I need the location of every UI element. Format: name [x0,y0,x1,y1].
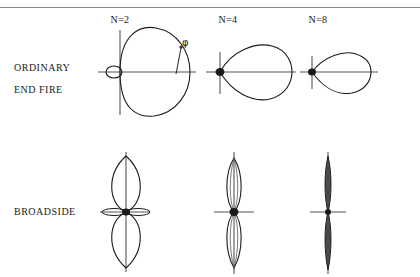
row-label-end-fire: END FIRE [14,84,63,95]
origin-blob [230,208,239,216]
lower-main-lobe [325,212,331,270]
origin-sidelobe-blob [216,68,225,76]
row-label-ordinary: ORDINARY [14,62,70,73]
origin-blob [122,209,130,216]
phi-ray-line [176,48,181,74]
plot-broadside-n2 [88,148,168,276]
row-label-broadside: BROADSIDE [14,206,76,217]
antenna-pattern-figure: N=2 N=4 N=8 ORDINARY END FIRE BROADSIDE … [0,0,420,277]
top-divider-rule [0,7,420,8]
main-lobe [312,53,371,94]
origin-blob [325,209,331,215]
column-header-n8: N=8 [283,14,353,25]
upper-main-lobe [325,156,331,212]
plot-broadside-n8 [290,150,370,276]
plot-broadside-n4 [196,150,276,276]
plot-endfire-n8 [292,36,412,156]
phi-symbol-label: φ [182,37,189,48]
origin-sidelobe-blob [308,69,316,76]
